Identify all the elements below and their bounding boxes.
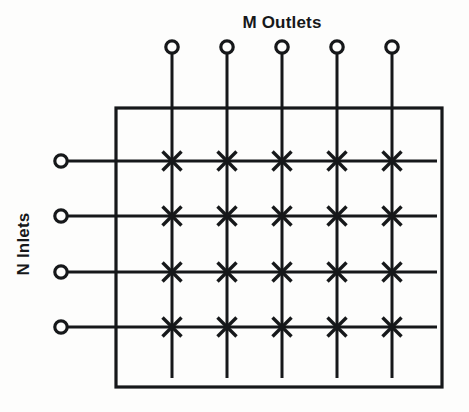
outlets-label: M Outlets (242, 13, 321, 32)
inlet-terminal-3 (55, 266, 67, 278)
inlet-terminal-4 (55, 321, 67, 333)
outlet-terminal-4 (331, 41, 343, 53)
outlet-terminal-2 (221, 41, 233, 53)
outlet-terminals (166, 41, 398, 53)
inlet-terminal-2 (55, 210, 67, 222)
inlets-label: N Inlets (14, 212, 33, 275)
outlet-terminal-1 (166, 41, 178, 53)
crossbar-diagram-canvas: M Outlets N Inlets (0, 0, 469, 412)
inlet-terminal-1 (55, 155, 67, 167)
inlet-terminals (55, 155, 67, 333)
outlet-terminal-3 (276, 41, 288, 53)
crossbar-diagram-figure: M Outlets N Inlets (0, 0, 469, 412)
inlet-bus-lines (68, 161, 437, 327)
outlet-terminal-5 (386, 41, 398, 53)
